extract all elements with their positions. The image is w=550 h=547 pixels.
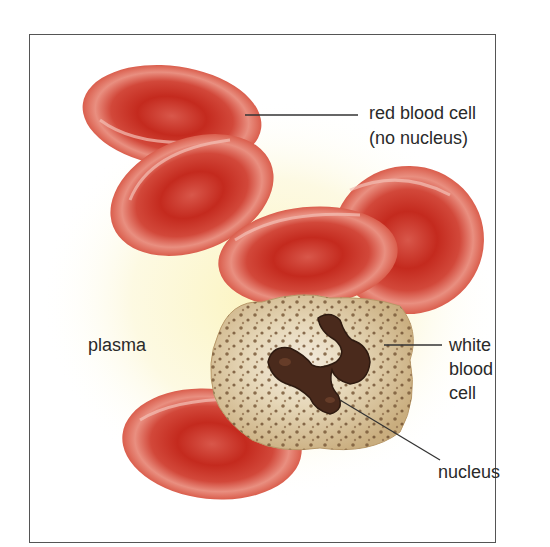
white-blood-cell — [211, 295, 414, 450]
label-no-nucleus: (no nucleus) — [369, 126, 468, 150]
label-red-blood-cell: red blood cell — [369, 101, 476, 125]
label-plasma: plasma — [88, 333, 146, 357]
label-blood: blood — [449, 357, 493, 381]
label-white: white — [449, 333, 491, 357]
label-cell: cell — [449, 381, 476, 405]
label-nucleus: nucleus — [438, 460, 500, 484]
